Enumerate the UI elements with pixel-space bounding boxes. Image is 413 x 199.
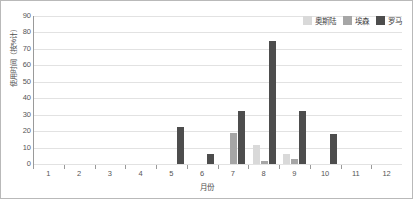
x-axis-tick-label: 8 xyxy=(248,169,279,178)
bar-group xyxy=(157,16,188,164)
bar xyxy=(261,161,268,164)
bar-group xyxy=(95,16,126,164)
x-axis-tick-label: 1 xyxy=(33,169,64,178)
x-axis-tick-label: 2 xyxy=(64,169,95,178)
bar-group xyxy=(187,16,218,164)
legend-label: 埃森 xyxy=(355,15,369,26)
bar-group xyxy=(34,16,65,164)
y-axis-tick-label: 60 xyxy=(9,62,31,70)
y-axis-tick-label: 10 xyxy=(9,144,31,152)
y-axis-tick-label: 90 xyxy=(9,12,31,20)
bar xyxy=(238,111,245,164)
legend: 奥斯陆埃森罗马 xyxy=(303,15,402,26)
legend-swatch-icon xyxy=(376,16,385,25)
bar-group xyxy=(65,16,96,164)
bar-group xyxy=(126,16,157,164)
bar xyxy=(330,134,337,164)
x-axis-tick-label: 3 xyxy=(95,169,126,178)
y-axis-tick-label: 0 xyxy=(9,160,31,168)
bar-groups xyxy=(34,16,402,164)
legend-item[interactable]: 埃森 xyxy=(343,15,369,26)
x-axis-tick-label: 9 xyxy=(279,169,310,178)
y-axis-tick-label: 20 xyxy=(9,127,31,135)
x-axis-tick-label: 4 xyxy=(125,169,156,178)
legend-item[interactable]: 罗马 xyxy=(376,15,402,26)
x-axis-tick-label: 5 xyxy=(156,169,187,178)
bar-group xyxy=(218,16,249,164)
bar-chart-figure: 使用时间（按%计） 9080706050403020100 1234567891… xyxy=(0,0,413,199)
bar xyxy=(283,154,290,164)
legend-label: 奥斯陆 xyxy=(315,15,336,26)
bar xyxy=(291,159,298,164)
legend-item[interactable]: 奥斯陆 xyxy=(303,15,336,26)
x-axis-tick-labels: 123456789101112 xyxy=(33,169,402,178)
x-axis-tick-label: 12 xyxy=(371,169,402,178)
bar-group xyxy=(279,16,310,164)
bar-group xyxy=(310,16,341,164)
legend-swatch-icon xyxy=(343,16,352,25)
bar xyxy=(299,111,306,164)
legend-swatch-icon xyxy=(303,16,312,25)
x-axis-tick-label: 7 xyxy=(218,169,249,178)
x-axis-tick-label: 6 xyxy=(187,169,218,178)
x-axis-title: 月份 xyxy=(1,181,412,192)
y-axis-tick-label: 50 xyxy=(9,78,31,86)
plot-area xyxy=(33,16,402,165)
bar xyxy=(269,41,276,164)
bar xyxy=(253,145,260,164)
x-axis-tick-label: 10 xyxy=(310,169,341,178)
y-axis-tick-label: 80 xyxy=(9,29,31,37)
legend-label: 罗马 xyxy=(388,15,402,26)
x-axis-tick-label: 11 xyxy=(341,169,372,178)
bar xyxy=(207,154,214,164)
bar-group xyxy=(371,16,402,164)
y-axis-tick-label: 30 xyxy=(9,111,31,119)
y-axis-tick-label: 70 xyxy=(9,45,31,53)
y-axis-tick-label: 40 xyxy=(9,94,31,102)
bar-group xyxy=(341,16,372,164)
bar xyxy=(230,133,237,164)
bar xyxy=(177,127,184,164)
bar-group xyxy=(249,16,280,164)
y-axis-tick-labels: 9080706050403020100 xyxy=(9,11,31,165)
